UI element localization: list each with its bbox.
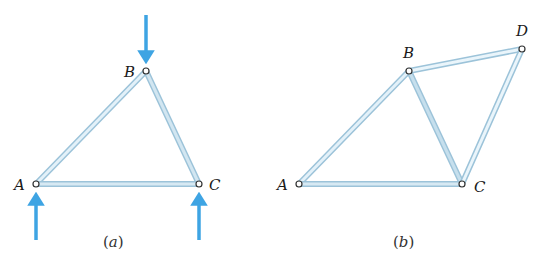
member-ab (36, 71, 146, 184)
member-bc (409, 71, 462, 184)
caption-b: (b) (393, 233, 414, 251)
node-label-c: C (474, 178, 486, 196)
member-bc (146, 71, 199, 184)
pin-a-node-a (33, 181, 39, 187)
node-label-d: D (515, 22, 528, 40)
pin-b-node-a (296, 181, 302, 187)
member-bd (409, 49, 522, 71)
pin-b-node-d (519, 46, 525, 52)
member-ab (299, 71, 409, 184)
member-cd (462, 49, 522, 184)
pin-b-node-b (406, 68, 412, 74)
pin-a-node-b (143, 68, 149, 74)
node-label-c: C (209, 176, 221, 194)
node-label-a: A (275, 176, 288, 194)
pin-a-node-c (196, 181, 202, 187)
node-label-b: B (123, 63, 135, 81)
truss-diagram: A B C (a) A B C D (0, 0, 540, 274)
node-label-b: B (402, 44, 414, 62)
figure-a: A B C (a) (12, 15, 221, 251)
pin-b-node-c (459, 181, 465, 187)
node-label-a: A (12, 176, 25, 194)
caption-a: (a) (103, 233, 124, 251)
figure-b: A B C D (b) (275, 22, 528, 251)
